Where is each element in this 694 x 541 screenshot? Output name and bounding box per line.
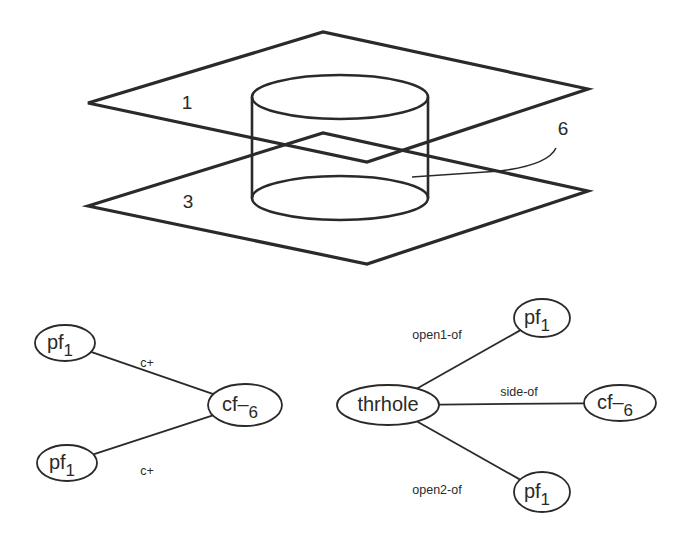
right-graph: open1-ofside-ofopen2-ofthrholepf1cf–6pf1 [337, 299, 656, 512]
node-label: thrhole [357, 393, 418, 415]
edge-label: open1-of [412, 328, 462, 342]
leader-line-6 [412, 148, 556, 177]
node-cf6: cf–6 [208, 384, 282, 426]
cylinder-top-ellipse [252, 75, 428, 119]
node-pf1-top: pf1 [35, 325, 95, 361]
edges: open1-ofside-ofopen2-of [412, 328, 584, 497]
edge-label: c+ [140, 356, 154, 370]
edge-thrhole-cf6 [439, 403, 584, 404]
bottom-plane-label: 3 [183, 191, 194, 212]
face-labels: 136 [182, 92, 569, 212]
node-pf1-top: pf1 [514, 299, 570, 337]
cylinder-face-label: 6 [558, 118, 569, 139]
top-plane-label: 1 [182, 92, 193, 113]
edge-label: c+ [140, 464, 154, 478]
node-pf1-bottom: pf1 [37, 445, 97, 481]
edges: c+c+ [91, 352, 213, 478]
nodes: thrholepf1cf–6pf1 [337, 299, 656, 512]
edge-thrhole-pf1-bottom [417, 421, 520, 479]
left-graph: c+c+pf1cf–6pf1 [35, 325, 282, 481]
edge-label: open2-of [412, 483, 462, 497]
edge-label: side-of [500, 385, 538, 399]
diagram-canvas: 136 c+c+pf1cf–6pf1 open1-ofside-ofopen2-… [0, 0, 694, 541]
solid-illustration: 136 [88, 32, 588, 264]
nodes: pf1cf–6pf1 [35, 325, 282, 481]
top-plane [88, 32, 588, 162]
node-thrhole: thrhole [337, 385, 439, 425]
bottom-plane [88, 133, 588, 264]
node-cf6: cf–6 [584, 385, 656, 421]
cylinder-bottom-ellipse [252, 176, 428, 220]
edge-pf1-bottom-cf6 [93, 415, 213, 454]
node-pf1-bottom: pf1 [514, 472, 570, 512]
